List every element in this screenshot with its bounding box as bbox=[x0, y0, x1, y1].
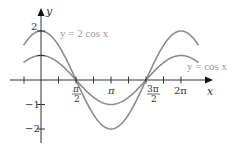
y-axis-label: y bbox=[45, 5, 53, 18]
y-tick-label-minus-1: −1 bbox=[25, 99, 40, 110]
y-axis-arrow-icon bbox=[38, 8, 45, 16]
curve-label-cos: y = cos x bbox=[187, 60, 228, 72]
x-tick-label-3pi-half-num: 3π bbox=[147, 84, 159, 94]
y-tick-label-minus-2: −2 bbox=[25, 123, 40, 134]
x-axis-arrow-icon bbox=[205, 77, 213, 84]
curve-label-2cos: y = 2 cos x bbox=[60, 27, 109, 39]
x-tick-label-pi-half-num: π bbox=[72, 84, 80, 94]
x-tick-label-pi-half-den: 2 bbox=[74, 94, 80, 104]
x-tick-label-2pi: 2π bbox=[174, 85, 187, 96]
x-tick-label-3pi-half-den: 2 bbox=[151, 94, 157, 104]
y-tick-label-2: 2 bbox=[31, 21, 37, 32]
cosine-chart: y x 2 −1 −2 π 2 π 3π 2 2π y = 2 cos x y … bbox=[0, 0, 238, 150]
x-tick-label-pi: π bbox=[107, 85, 115, 96]
x-axis-label: x bbox=[207, 85, 214, 98]
